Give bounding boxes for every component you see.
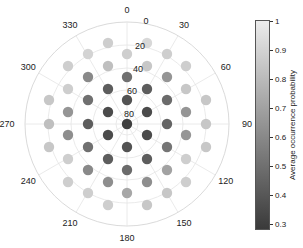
data-point xyxy=(103,38,113,48)
colorbar-tick xyxy=(270,137,273,138)
data-point xyxy=(142,107,152,117)
colorbar-tick-label: 0.8 xyxy=(275,75,286,84)
data-point xyxy=(83,188,93,198)
data-point xyxy=(122,142,132,152)
data-point xyxy=(201,95,211,105)
data-point xyxy=(103,61,113,71)
data-point xyxy=(44,142,54,152)
colorbar-tick xyxy=(270,50,273,51)
data-point xyxy=(201,119,211,129)
data-point xyxy=(63,154,73,164)
colorbar-tick-label: 0.9 xyxy=(275,46,286,55)
data-point xyxy=(122,72,132,82)
data-point xyxy=(103,84,113,94)
angle-tick-label: 330 xyxy=(62,20,77,30)
data-point xyxy=(181,84,191,94)
data-point xyxy=(83,95,93,105)
data-point xyxy=(83,119,93,129)
data-point xyxy=(83,142,93,152)
angle-tick-label: 120 xyxy=(218,176,233,186)
data-point xyxy=(181,107,191,117)
data-point xyxy=(63,61,73,71)
angle-tick-label: 300 xyxy=(21,62,36,72)
data-point xyxy=(103,154,113,164)
data-point xyxy=(162,165,172,175)
data-point xyxy=(122,188,132,198)
angle-tick-label: 180 xyxy=(119,233,134,243)
data-point xyxy=(44,119,54,129)
data-point xyxy=(162,95,172,105)
colorbar-tick xyxy=(270,166,273,167)
data-point xyxy=(142,200,152,210)
angle-tick-label: 210 xyxy=(62,218,77,228)
colorbar-tick-label: 1 xyxy=(275,17,279,26)
angle-tick-label: 0 xyxy=(124,5,129,15)
data-point xyxy=(103,177,113,187)
data-point xyxy=(103,107,113,117)
data-point xyxy=(162,72,172,82)
data-point xyxy=(122,119,132,129)
colorbar-tick-label: 0.4 xyxy=(275,191,286,200)
data-point xyxy=(162,142,172,152)
data-point xyxy=(103,200,113,210)
data-point xyxy=(162,188,172,198)
radial-tick-label: 60 xyxy=(127,86,137,96)
data-point xyxy=(142,154,152,164)
radial-tick-label: 80 xyxy=(124,109,134,119)
data-point xyxy=(44,95,54,105)
colorbar-tick xyxy=(270,108,273,109)
colorbar xyxy=(255,20,270,230)
colorbar-tick-label: 0.5 xyxy=(275,162,286,171)
colorbar-tick-label: 0.6 xyxy=(275,133,286,142)
angle-tick-label: 60 xyxy=(221,62,231,72)
data-point xyxy=(83,165,93,175)
data-point xyxy=(122,165,132,175)
data-point xyxy=(162,119,172,129)
colorbar-tick xyxy=(270,21,273,22)
colorbar-tick-label: 0.3 xyxy=(275,220,286,229)
angle-tick-label: 240 xyxy=(21,176,36,186)
colorbar-tick xyxy=(270,224,273,225)
data-point xyxy=(63,177,73,187)
angle-tick-label: 90 xyxy=(242,119,252,129)
data-point xyxy=(201,142,211,152)
data-point xyxy=(142,130,152,140)
data-point xyxy=(142,177,152,187)
data-point xyxy=(63,84,73,94)
radial-tick-label: 20 xyxy=(135,41,145,51)
colorbar-tick xyxy=(270,195,273,196)
radial-tick-label: 40 xyxy=(133,64,143,74)
radial-tick-label: 0 xyxy=(143,16,148,26)
data-point xyxy=(181,154,191,164)
data-point xyxy=(63,130,73,140)
data-point xyxy=(142,84,152,94)
data-point xyxy=(162,49,172,59)
data-point xyxy=(63,107,73,117)
data-point xyxy=(103,130,113,140)
data-point xyxy=(83,72,93,82)
angle-tick-label: 270 xyxy=(0,119,15,129)
data-point xyxy=(122,95,132,105)
data-point xyxy=(122,49,132,59)
colorbar-tick-label: 0.7 xyxy=(275,104,286,113)
data-point xyxy=(181,130,191,140)
data-point xyxy=(83,49,93,59)
colorbar-title: Average occurrence probability xyxy=(288,70,297,180)
data-point xyxy=(181,61,191,71)
colorbar-tick xyxy=(270,79,273,80)
data-point xyxy=(181,177,191,187)
angle-tick-label: 150 xyxy=(176,218,191,228)
data-point xyxy=(142,61,152,71)
angle-tick-label: 30 xyxy=(179,20,189,30)
